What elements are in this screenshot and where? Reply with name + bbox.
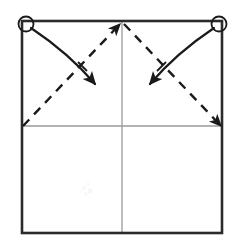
origami-figure: Origami fold step diagram — [0, 0, 240, 250]
origami-diagram-svg — [0, 0, 240, 250]
